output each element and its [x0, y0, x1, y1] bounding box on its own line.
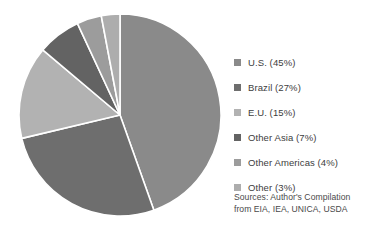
legend-swatch-icon [234, 59, 241, 66]
pie-chart-plot-area [18, 13, 222, 217]
legend-item-brazil[interactable]: Brazil (27%) [234, 75, 372, 100]
legend-item-label: U.S. (45%) [248, 57, 295, 68]
legend-swatch-icon [234, 109, 241, 116]
legend-item-label: Brazil (27%) [248, 82, 301, 93]
legend-item-other-americas[interactable]: Other Americas (4%) [234, 150, 372, 175]
pie-slice-group [19, 14, 221, 216]
source-note-line-1: Sources: Author's Compilation [234, 192, 372, 204]
legend-item-label: Other Americas (4%) [248, 157, 338, 168]
legend-swatch-icon [234, 159, 241, 166]
chart-legend: U.S. (45%) Brazil (27%) E.U. (15%) Other… [234, 50, 372, 200]
legend-item-eu[interactable]: E.U. (15%) [234, 100, 372, 125]
legend-item-us[interactable]: U.S. (45%) [234, 50, 372, 75]
legend-item-label: E.U. (15%) [248, 107, 295, 118]
legend-swatch-icon [234, 84, 241, 91]
source-note: Sources: Author's Compilation from EIA, … [234, 192, 372, 215]
legend-item-other-asia[interactable]: Other Asia (7%) [234, 125, 372, 150]
pie-chart-figure: U.S. (45%) Brazil (27%) E.U. (15%) Other… [0, 0, 372, 233]
source-note-line-2: from EIA, IEA, UNICA, USDA [234, 204, 372, 216]
legend-swatch-icon [234, 134, 241, 141]
legend-item-label: Other Asia (7%) [248, 132, 317, 143]
legend-swatch-icon [234, 184, 241, 191]
pie-chart-svg [18, 13, 222, 217]
